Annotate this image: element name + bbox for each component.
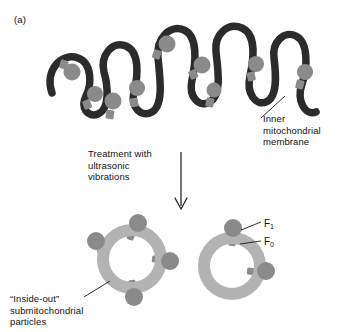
- f1-label: F1: [264, 218, 274, 229]
- f1-leader-line: [241, 222, 261, 230]
- f1f0-particle: [105, 93, 122, 120]
- panel-label: (a): [14, 14, 26, 26]
- vesicle-icon-right: [204, 219, 275, 294]
- inner-mitochondrial-membrane-label: Inner mitochondrial membrane: [263, 113, 321, 148]
- down-arrow-icon: [175, 152, 187, 209]
- f1f0-particle: [205, 83, 221, 108]
- vesicle-icon-left: [87, 214, 179, 306]
- figure-illustration: [0, 0, 344, 332]
- inside-out-particles-label: “Inside-out” submitochondrial particles: [10, 293, 83, 328]
- f0-subscript: 0: [270, 241, 274, 248]
- particles-leader-line: [84, 281, 110, 297]
- f1f0-particle: [59, 59, 81, 81]
- figure-panel-a: (a) Inner mitochondrial membrane Treatme…: [0, 0, 344, 332]
- f1-subscript: 1: [270, 223, 274, 230]
- f0-label: F0: [264, 236, 274, 247]
- treatment-label: Treatment with ultrasonic vibrations: [88, 148, 152, 183]
